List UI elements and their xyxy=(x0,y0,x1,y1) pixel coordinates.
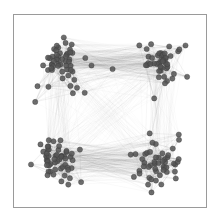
graph-node xyxy=(177,47,182,52)
graph-node xyxy=(62,173,67,178)
graph-node xyxy=(66,182,71,187)
graph-node xyxy=(153,166,158,171)
graph-node xyxy=(162,74,167,79)
graph-node xyxy=(149,42,154,47)
graph-node xyxy=(74,85,79,90)
graph-node xyxy=(133,152,138,157)
graph-node xyxy=(68,67,73,72)
graph-node xyxy=(183,43,188,48)
network-figure xyxy=(0,0,222,223)
graph-node xyxy=(38,142,43,147)
graph-node xyxy=(167,44,172,49)
graph-node xyxy=(131,174,136,179)
graph-node xyxy=(28,162,33,167)
graph-node xyxy=(49,66,54,71)
graph-node xyxy=(160,151,165,156)
graph-node xyxy=(162,81,167,86)
graph-node xyxy=(56,63,61,68)
graph-node xyxy=(137,43,142,48)
graph-node xyxy=(172,169,177,174)
graph-node xyxy=(173,176,178,181)
graph-node xyxy=(110,66,115,71)
graph-node xyxy=(45,144,50,149)
graph-node xyxy=(41,63,46,68)
graph-node xyxy=(72,77,77,82)
graph-node xyxy=(51,139,56,144)
graph-node xyxy=(83,55,88,60)
graph-node xyxy=(168,53,173,58)
graph-node xyxy=(144,46,149,51)
graph-node xyxy=(146,182,151,187)
graph-node xyxy=(153,178,158,183)
graph-node xyxy=(46,84,51,89)
graph-node xyxy=(149,190,154,195)
graph-node xyxy=(170,76,175,81)
graph-node xyxy=(63,54,68,59)
graph-node xyxy=(35,84,40,89)
graph-node xyxy=(69,151,74,156)
graph-node xyxy=(162,51,167,56)
graph-node xyxy=(165,62,170,67)
graph-node xyxy=(57,144,62,149)
graph-node xyxy=(89,63,94,68)
graph-node xyxy=(176,157,181,162)
graph-node xyxy=(137,171,142,176)
graph-node xyxy=(158,64,163,69)
graph-node xyxy=(153,155,158,160)
graph-node xyxy=(148,149,153,154)
graph-node xyxy=(69,42,74,47)
graph-node xyxy=(68,50,73,55)
graph-node xyxy=(51,172,56,177)
graph-node xyxy=(68,83,73,88)
network-graph xyxy=(0,0,222,223)
graph-node xyxy=(176,137,181,142)
graph-node xyxy=(70,91,75,96)
graph-node xyxy=(171,71,176,76)
graph-node xyxy=(77,147,82,152)
graph-node xyxy=(64,148,69,153)
graph-node xyxy=(45,55,50,60)
graph-node xyxy=(161,168,166,173)
graph-node xyxy=(63,156,68,161)
graph-node xyxy=(66,167,71,172)
graph-node xyxy=(185,74,190,79)
graph-node xyxy=(148,61,153,66)
graph-node xyxy=(60,69,65,74)
graph-node xyxy=(159,182,164,187)
graph-node xyxy=(59,179,64,184)
graph-node xyxy=(156,75,161,80)
graph-node xyxy=(51,58,56,63)
graph-node xyxy=(45,173,50,178)
graph-node xyxy=(46,138,51,143)
graph-node xyxy=(44,163,49,168)
graph-node xyxy=(152,96,157,101)
graph-node xyxy=(79,180,84,185)
graph-node xyxy=(150,140,155,145)
graph-node xyxy=(60,76,65,81)
graph-node xyxy=(66,59,71,64)
graph-node xyxy=(150,55,155,60)
graph-node xyxy=(128,152,133,157)
graph-node xyxy=(33,99,38,104)
graph-node xyxy=(149,177,154,182)
graph-node xyxy=(54,52,59,57)
graph-node xyxy=(44,151,49,156)
graph-node xyxy=(166,153,171,158)
graph-node xyxy=(52,157,57,162)
graph-node xyxy=(82,90,87,95)
graph-node xyxy=(160,59,165,64)
graph-node xyxy=(53,167,58,172)
graph-node xyxy=(63,40,68,45)
graph-node xyxy=(170,146,175,151)
graph-node xyxy=(58,138,63,143)
graph-node xyxy=(147,131,152,136)
graph-node xyxy=(67,176,72,181)
graph-node xyxy=(176,132,181,137)
graph-node xyxy=(141,164,146,169)
graph-node xyxy=(157,173,162,178)
graph-node xyxy=(146,164,151,169)
graph-node xyxy=(66,73,71,78)
graph-node xyxy=(54,43,59,48)
graph-node xyxy=(61,35,66,40)
